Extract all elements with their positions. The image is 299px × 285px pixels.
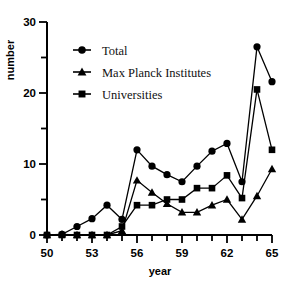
data-point-square <box>149 202 156 209</box>
data-point-square <box>74 232 81 239</box>
y-tick-label: 30 <box>23 16 36 28</box>
data-point-square <box>59 232 66 239</box>
data-point-square <box>104 232 111 239</box>
x-tick-label: 50 <box>41 247 54 259</box>
legend-label-total: Total <box>102 44 128 58</box>
data-point-circle <box>268 78 275 85</box>
data-point-square <box>194 185 201 192</box>
chart-legend: TotalMax Planck InstitutesUniversities <box>73 44 211 102</box>
data-point-circle <box>133 146 140 153</box>
x-tick-label: 56 <box>131 247 144 259</box>
x-tick-label: 59 <box>176 247 189 259</box>
line-chart: 0102030 505356596265 TotalMax Planck Ins… <box>0 0 299 285</box>
data-point-circle <box>73 223 80 230</box>
data-point-triangle <box>268 165 276 172</box>
y-axis-label: number <box>4 39 16 80</box>
data-point-triangle <box>133 176 141 183</box>
x-axis-label: year <box>149 265 172 277</box>
data-point-square <box>44 232 51 239</box>
legend-label-universities: Universities <box>102 88 163 102</box>
data-point-square <box>239 195 246 202</box>
legend-label-max-planck-institutes: Max Planck Institutes <box>102 66 211 80</box>
y-tick-label: 10 <box>23 158 36 170</box>
data-point-triangle <box>253 192 261 199</box>
data-point-square <box>134 202 141 209</box>
data-point-circle <box>223 140 230 147</box>
data-point-circle <box>163 171 170 178</box>
data-point-circle <box>208 148 215 155</box>
x-tick-label: 62 <box>221 247 234 259</box>
data-point-square <box>179 196 186 203</box>
data-point-circle <box>88 215 95 222</box>
x-axis: 505356596265 <box>41 235 279 259</box>
data-point-square <box>164 196 171 203</box>
data-point-square <box>89 232 96 239</box>
data-point-circle <box>178 178 185 185</box>
data-point-square <box>269 147 276 154</box>
x-tick-label: 53 <box>86 247 99 259</box>
data-point-square <box>119 223 126 230</box>
data-point-square <box>224 172 231 179</box>
data-point-circle <box>103 202 110 209</box>
data-point-triangle <box>223 195 231 202</box>
y-tick-label: 20 <box>23 87 36 99</box>
y-axis: 0102030 <box>23 16 47 241</box>
legend-marker-circle <box>78 46 86 54</box>
data-point-square <box>254 86 261 93</box>
y-tick-label: 0 <box>30 229 36 241</box>
data-point-circle <box>148 163 155 170</box>
data-point-circle <box>253 43 260 50</box>
series-line-universities <box>47 89 272 235</box>
x-tick-label: 65 <box>266 247 279 259</box>
legend-marker-square <box>79 91 86 98</box>
data-point-circle <box>193 163 200 170</box>
chart-container: 0102030 505356596265 TotalMax Planck Ins… <box>0 0 299 285</box>
data-point-square <box>209 185 216 192</box>
